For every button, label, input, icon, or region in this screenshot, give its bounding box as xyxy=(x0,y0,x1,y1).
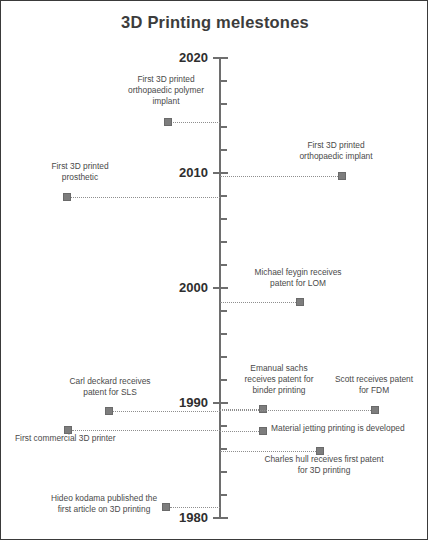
milestone-label: Hideo kodama published the first article… xyxy=(45,493,163,515)
milestone-connector xyxy=(168,122,220,123)
milestone-label: First commercial 3D printer xyxy=(15,433,141,444)
axis-tick-major xyxy=(213,57,228,59)
axis-tick-major xyxy=(213,172,228,174)
decade-label-2020: 2020 xyxy=(148,50,208,65)
milestone-connector xyxy=(220,451,316,452)
axis-tick-minor xyxy=(220,448,227,450)
milestone-marker[interactable] xyxy=(164,118,172,126)
milestone-connector xyxy=(220,302,296,303)
milestone-label: Scott receives patent for FDM xyxy=(323,374,425,396)
milestone-label: Charles hull receives first patent for 3… xyxy=(251,454,397,476)
axis-tick-minor xyxy=(220,356,227,358)
milestone-connector xyxy=(113,411,220,412)
axis-tick-major xyxy=(213,402,228,404)
milestone-label: First 3D printed orthopaedic implant xyxy=(273,140,399,162)
milestone-connector xyxy=(220,410,371,411)
axis-tick-minor xyxy=(220,149,227,151)
milestone-label: Material jetting printing is developed xyxy=(271,423,421,434)
timeline-infographic: 3D Printing melestones 20202010200019901… xyxy=(0,0,428,540)
milestone-marker[interactable] xyxy=(338,172,346,180)
axis-tick-minor xyxy=(220,218,227,220)
axis-tick-minor xyxy=(220,310,227,312)
milestone-label: First 3D printed prosthetic xyxy=(17,161,143,183)
milestone-connector xyxy=(220,431,259,432)
milestone-marker[interactable] xyxy=(63,193,71,201)
milestone-connector xyxy=(72,430,220,431)
axis-tick-minor xyxy=(220,333,227,335)
axis-tick-minor xyxy=(220,264,227,266)
axis-tick-minor xyxy=(220,494,227,496)
milestone-connector xyxy=(71,197,220,198)
milestone-marker[interactable] xyxy=(105,407,113,415)
page-title: 3D Printing melestones xyxy=(1,13,428,32)
milestone-marker[interactable] xyxy=(259,427,267,435)
milestone-marker[interactable] xyxy=(162,503,170,511)
milestone-marker[interactable] xyxy=(259,405,267,413)
axis-tick-minor xyxy=(220,471,227,473)
axis-tick-minor xyxy=(220,241,227,243)
milestone-label: Michael feygin receives patent for LOM xyxy=(235,267,361,289)
axis-tick-minor xyxy=(220,425,227,427)
decade-label-2000: 2000 xyxy=(148,280,208,295)
axis-tick-major xyxy=(213,287,228,289)
milestone-label: Carl deckard receives patent for SLS xyxy=(47,376,173,398)
axis-tick-major xyxy=(213,517,228,519)
axis-tick-minor xyxy=(220,126,227,128)
milestone-marker[interactable] xyxy=(371,406,379,414)
decade-label-2010: 2010 xyxy=(148,165,208,180)
milestone-connector xyxy=(220,176,338,177)
milestone-connector xyxy=(170,507,220,508)
axis-tick-minor xyxy=(220,195,227,197)
milestone-marker[interactable] xyxy=(296,298,304,306)
milestone-label: First 3D printed orthopaedic polymer imp… xyxy=(98,74,234,106)
